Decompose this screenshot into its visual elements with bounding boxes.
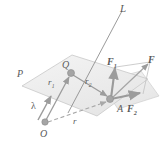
vector-diagram-svg xyxy=(0,0,162,145)
label-plane-p: P xyxy=(17,69,23,79)
point-q-node xyxy=(68,70,75,77)
label-force-f2-sub: 2 xyxy=(134,109,137,116)
label-vector-r2: r2 xyxy=(85,77,92,88)
label-force-f1-sub: 1 xyxy=(114,62,117,69)
label-force-f: F xyxy=(148,55,155,65)
label-point-o: O xyxy=(40,129,47,139)
label-vector-r1: r1 xyxy=(48,78,55,89)
figure-container: L P Q r1 r2 λ O r A F1 F2 F xyxy=(0,0,162,145)
label-vector-r2-sub: 2 xyxy=(89,82,92,88)
label-force-f2-base: F xyxy=(127,103,134,114)
label-lambda: λ xyxy=(31,101,36,111)
label-point-a: A xyxy=(117,104,123,114)
point-o-node xyxy=(42,119,48,125)
vector-lambda xyxy=(38,96,51,120)
label-vector-r1-sub: 1 xyxy=(52,83,55,89)
label-force-f2: F2 xyxy=(127,104,137,116)
label-vector-r1-base: r xyxy=(48,77,52,87)
label-vector-r: r xyxy=(73,117,77,126)
label-force-f1-base: F xyxy=(107,56,114,67)
point-a-node xyxy=(107,96,114,103)
label-point-q: Q xyxy=(62,60,69,70)
label-force-f1: F1 xyxy=(107,57,117,69)
label-vector-r2-base: r xyxy=(85,76,89,86)
label-line-l: L xyxy=(120,3,126,14)
